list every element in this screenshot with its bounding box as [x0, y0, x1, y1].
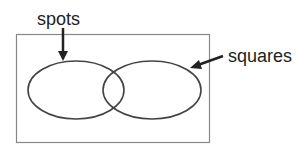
squares-set-ellipse	[103, 61, 201, 119]
universe-frame	[17, 35, 210, 143]
spots-set-ellipse	[28, 61, 124, 119]
spots-arrow	[58, 28, 68, 61]
squares-arrow	[190, 56, 223, 69]
squares-label: squares	[228, 47, 292, 65]
spots-label: spots	[37, 10, 80, 28]
